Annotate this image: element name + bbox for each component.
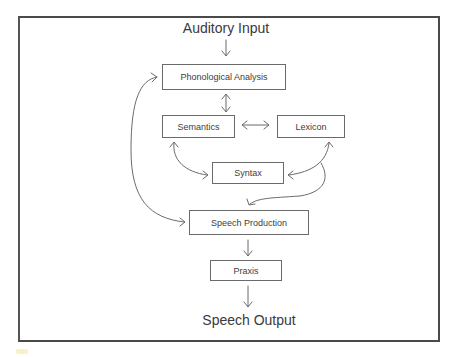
curved-arrow-icon <box>247 163 325 205</box>
arrow-down-icon <box>244 286 252 307</box>
curved-double-arrow-icon <box>170 142 208 179</box>
arrow-down-icon <box>222 40 230 56</box>
connector-arrows <box>0 0 467 357</box>
double-arrow-vertical-icon <box>222 94 230 112</box>
curved-double-arrow-icon <box>288 142 333 179</box>
double-arrow-horizontal-icon <box>242 121 269 129</box>
arrow-down-icon <box>244 240 252 256</box>
scan-mark <box>16 349 28 354</box>
curved-double-arrow-icon <box>131 73 185 226</box>
